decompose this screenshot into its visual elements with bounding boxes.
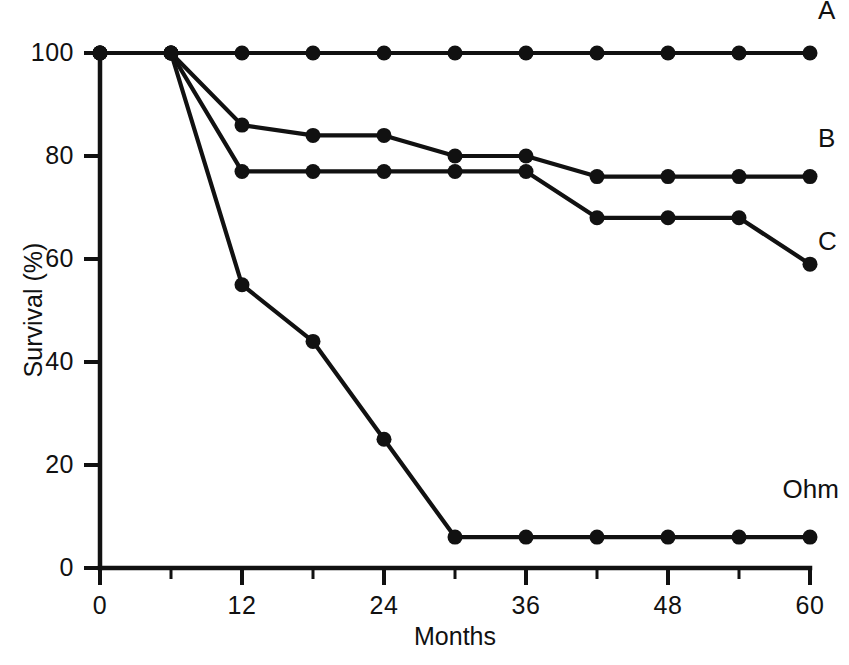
series-point-b-54 <box>732 169 747 184</box>
series-label-c: C <box>818 226 837 256</box>
series-a <box>93 46 818 61</box>
series-label-b: B <box>818 123 835 153</box>
series-point-ohm-12 <box>235 277 250 292</box>
series-label-a: A <box>818 0 836 25</box>
series-point-c-42 <box>590 210 605 225</box>
chart-canvas: 020406080100 01224364860 ABCOhm Survival… <box>0 0 849 665</box>
y-tick-label-40: 40 <box>45 347 74 375</box>
series-point-a-60 <box>803 46 818 61</box>
series-line-ohm <box>100 53 810 537</box>
y-tick-label-0: 0 <box>60 553 74 581</box>
x-tick-label-24: 24 <box>370 591 399 619</box>
survival-chart-figure: 020406080100 01224364860 ABCOhm Survival… <box>0 0 849 665</box>
series-point-a-42 <box>590 46 605 61</box>
series-point-a-36 <box>519 46 534 61</box>
x-axis-tick-labels: 01224364860 <box>93 591 825 619</box>
y-axis-title: Survival (%) <box>19 243 47 378</box>
series-point-b-24 <box>377 128 392 143</box>
series-point-ohm-36 <box>519 530 534 545</box>
series-point-ohm-60 <box>803 530 818 545</box>
series-point-a-30 <box>448 46 463 61</box>
series-point-a-18 <box>306 46 321 61</box>
axes-group <box>100 53 810 568</box>
x-tick-label-60: 60 <box>796 591 825 619</box>
series-point-ohm-54 <box>732 530 747 545</box>
series-b <box>93 46 818 185</box>
series-point-ohm-0 <box>93 46 108 61</box>
series-point-b-60 <box>803 169 818 184</box>
series-ohm <box>93 46 818 545</box>
series-point-ohm-48 <box>661 530 676 545</box>
y-tick-label-100: 100 <box>31 38 74 66</box>
series-point-b-42 <box>590 169 605 184</box>
series-group <box>93 46 818 545</box>
series-point-c-54 <box>732 210 747 225</box>
y-axis-ticks <box>84 53 100 568</box>
series-point-ohm-42 <box>590 530 605 545</box>
series-point-b-30 <box>448 149 463 164</box>
series-point-c-18 <box>306 164 321 179</box>
series-point-c-12 <box>235 164 250 179</box>
series-point-b-48 <box>661 169 676 184</box>
series-point-a-24 <box>377 46 392 61</box>
series-point-ohm-6 <box>164 46 179 61</box>
x-tick-label-36: 36 <box>512 591 541 619</box>
x-tick-label-0: 0 <box>93 591 107 619</box>
series-point-c-30 <box>448 164 463 179</box>
series-point-ohm-30 <box>448 530 463 545</box>
series-point-ohm-24 <box>377 432 392 447</box>
series-point-a-12 <box>235 46 250 61</box>
series-point-c-36 <box>519 164 534 179</box>
series-point-b-12 <box>235 118 250 133</box>
y-tick-label-60: 60 <box>45 244 74 272</box>
series-point-c-60 <box>803 257 818 272</box>
y-tick-label-20: 20 <box>45 450 74 478</box>
series-label-ohm: Ohm <box>783 474 839 504</box>
series-point-c-48 <box>661 210 676 225</box>
x-axis-title: Months <box>414 622 496 650</box>
x-tick-label-12: 12 <box>228 591 257 619</box>
series-point-b-36 <box>519 149 534 164</box>
x-tick-label-48: 48 <box>654 591 683 619</box>
series-point-b-18 <box>306 128 321 143</box>
series-point-c-24 <box>377 164 392 179</box>
y-tick-label-80: 80 <box>45 141 74 169</box>
series-point-ohm-18 <box>306 334 321 349</box>
series-point-a-54 <box>732 46 747 61</box>
series-point-a-48 <box>661 46 676 61</box>
